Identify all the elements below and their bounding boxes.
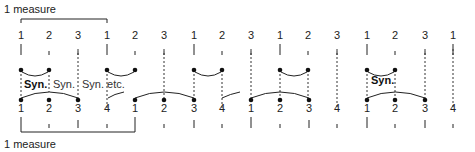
bottom-row-tie-arcs	[21, 92, 425, 98]
top-measure-bracket: 1 measure	[4, 3, 107, 23]
top-beat-label: 2	[219, 29, 225, 41]
bottom-beat-label: 4	[219, 102, 225, 114]
top-beat-label: 2	[132, 29, 138, 41]
top-row-beat-labels: 1 2 3 1 2 3 1 2 3 1 2 3 1 2 3 1	[18, 29, 456, 41]
bottom-beat-label: 3	[75, 102, 81, 114]
top-beat-label: 3	[248, 29, 254, 41]
syn-label-bold: Syn.	[24, 78, 47, 90]
top-beat-label: 3	[161, 29, 167, 41]
top-beat-label: 1	[104, 29, 110, 41]
top-beat-label: 2	[392, 29, 398, 41]
bottom-beat-label: 2	[392, 102, 398, 114]
top-beat-label: 1	[450, 29, 456, 41]
top-beat-label: 1	[277, 29, 283, 41]
top-beat-label: 3	[334, 29, 340, 41]
top-beat-label: 3	[422, 29, 428, 41]
bottom-measure-bracket: 1 measure	[4, 128, 135, 150]
syn-label: Syn.	[53, 78, 75, 90]
bottom-beat-label: 1	[132, 102, 138, 114]
bottom-beat-label: 1	[248, 102, 254, 114]
top-beat-label: 1	[191, 29, 197, 41]
bottom-beat-label: 1	[18, 102, 24, 114]
polymeter-syncopation-diagram: 1 measure 1 2 3 1 2 3 1 2 3 1 2 3 1 2 3 …	[0, 0, 475, 152]
bottom-beat-label: 3	[306, 102, 312, 114]
top-beat-label: 2	[305, 29, 311, 41]
top-row-dots	[19, 68, 398, 73]
bottom-row-ticks	[21, 117, 453, 128]
top-beat-label: 2	[46, 29, 52, 41]
bottom-row-beat-labels: 1 2 3 4 1 2 3 4 1 2 3 4 1 2 3 4	[18, 102, 456, 114]
top-beat-label: 3	[75, 29, 81, 41]
top-beat-label: 1	[364, 29, 370, 41]
bottom-beat-label: 4	[450, 102, 456, 114]
bottom-measure-label: 1 measure	[4, 138, 56, 150]
bottom-beat-label: 1	[364, 102, 370, 114]
bottom-beat-label: 4	[104, 102, 110, 114]
top-measure-label: 1 measure	[4, 3, 56, 15]
top-row-ticks	[21, 44, 453, 55]
bottom-beat-label: 3	[191, 102, 197, 114]
bottom-beat-label: 3	[422, 102, 428, 114]
bottom-beat-label: 2	[46, 102, 52, 114]
bottom-beat-label: 2	[161, 102, 167, 114]
bottom-beat-label: 2	[277, 102, 283, 114]
syn-etc-label: Syn. etc.	[82, 78, 125, 90]
top-beat-label: 1	[18, 29, 24, 41]
syn-label-bold: Syn.	[371, 74, 394, 86]
bottom-beat-label: 4	[334, 102, 340, 114]
